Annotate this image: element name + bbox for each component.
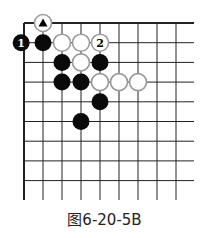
black-stone: [92, 93, 109, 110]
board-grid: [24, 23, 194, 200]
black-stone: [73, 113, 90, 130]
move-number-label: 2: [96, 37, 104, 50]
white-stone: [54, 34, 71, 51]
figure-caption: 图6-20-5B: [0, 208, 209, 229]
black-stone: [35, 34, 52, 51]
go-board-diagram: 12: [0, 0, 209, 238]
white-stone: [35, 15, 52, 32]
black-stone: [54, 74, 71, 91]
white-stone: 2: [92, 34, 109, 51]
move-number-label: 1: [17, 37, 25, 50]
white-stone: [92, 74, 109, 91]
white-stone: [111, 74, 128, 91]
white-stone: [73, 34, 90, 51]
stones-layer: 12: [13, 15, 147, 131]
black-stone: [73, 74, 90, 91]
black-stone: [54, 54, 71, 71]
white-stone: [73, 54, 90, 71]
white-stone: [130, 74, 147, 91]
black-stone: 1: [13, 34, 30, 51]
black-stone: [92, 54, 109, 71]
